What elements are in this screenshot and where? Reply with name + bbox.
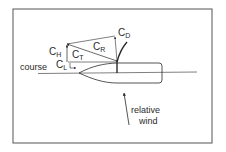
label-c-t: CT: [72, 49, 84, 61]
label-c-r: CR: [93, 41, 105, 53]
label-relative: relative: [131, 105, 160, 115]
label-wind: wind: [138, 116, 158, 126]
sail: [117, 42, 127, 62]
cd-vector: [115, 37, 117, 61]
label-c-l: CL: [56, 59, 67, 71]
diagram-frame: [13, 9, 212, 143]
sail-force-diagram: CD CH CT CR CL course relative wind: [0, 0, 226, 152]
relative-wind-arrow: [124, 93, 129, 125]
label-c-d: CD: [118, 27, 130, 39]
cr-line: [67, 36, 115, 44]
label-c-h: CH: [49, 46, 61, 58]
label-course: course: [20, 62, 47, 72]
